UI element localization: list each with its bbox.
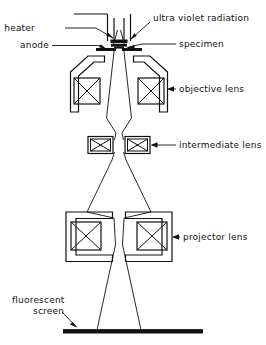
fluorescent-screen	[63, 330, 203, 334]
label-anode: anode	[20, 40, 49, 50]
objective-lens	[71, 56, 168, 112]
diagram-canvas: heater anode ultra violet radiation spec…	[0, 0, 266, 345]
label-projector-lens: projector lens	[183, 232, 248, 242]
label-fluorescent-line1: fluorescent	[12, 295, 65, 305]
leader-lines	[52, 22, 180, 328]
intermediate-lens	[88, 137, 150, 154]
label-objective-lens: objective lens	[179, 84, 244, 94]
uv-microscope-diagram: heater anode ultra violet radiation spec…	[0, 0, 266, 345]
label-uv-radiation: ultra violet radiation	[153, 13, 249, 23]
label-intermediate-lens: intermediate lens	[179, 140, 262, 150]
label-heater: heater	[4, 23, 35, 33]
source-column	[74, 14, 131, 43]
specimen-stage	[111, 44, 127, 49]
beam-path	[87, 30, 151, 330]
projector-lens	[66, 212, 172, 262]
label-fluorescent-line2: screen	[33, 306, 64, 316]
label-specimen: specimen	[179, 39, 224, 49]
